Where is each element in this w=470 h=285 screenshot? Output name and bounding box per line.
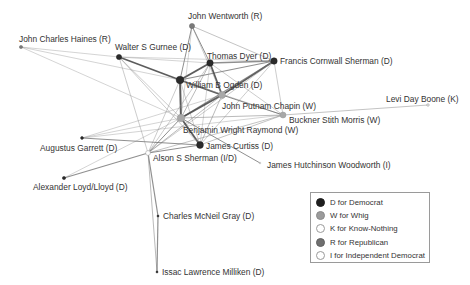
- edge-ogden-wentworth: [180, 26, 192, 80]
- legend-item-whig: W for Whig: [316, 209, 429, 222]
- republican-swatch-icon: [316, 238, 325, 247]
- edge-raymond-haines: [21, 47, 181, 118]
- legend-item-know-nothing: K for Know-Nothing: [316, 222, 429, 235]
- node-label-woodworth: James Hutchinson Woodworth (I): [267, 160, 391, 170]
- node-woodworth[interactable]: [259, 162, 261, 164]
- legend-item-independent-democrat: I for Independent Democrat: [316, 249, 429, 262]
- node-label-haines: John Charles Haines (R): [19, 34, 111, 44]
- node-lloyd[interactable]: [62, 176, 65, 179]
- node-morris[interactable]: [280, 112, 286, 118]
- legend-label: D for Democrat: [330, 198, 383, 207]
- edge-asherman-milliken: [148, 153, 157, 272]
- edge-ogden-raymond: [180, 80, 181, 118]
- legend: D for Democrat W for Whig K for Know-Not…: [310, 192, 430, 263]
- node-curtiss[interactable]: [197, 142, 204, 149]
- edge-curtiss-asherman: [148, 145, 200, 153]
- edge-raymond-asherman: [148, 118, 181, 153]
- node-chapin[interactable]: [219, 92, 226, 99]
- node-label-chapin: John Putnam Chapin (W): [222, 101, 316, 111]
- edge-wentworth-raymond: [181, 26, 192, 118]
- node-label-lloyd: Alexander Loyd/Lloyd (D): [33, 182, 128, 192]
- node-gurnee[interactable]: [116, 54, 121, 59]
- independent-democrat-swatch-icon: [316, 251, 325, 260]
- node-milliken[interactable]: [156, 271, 158, 273]
- democrat-swatch-icon: [316, 198, 325, 207]
- node-label-asherman: Alson S Sherman (I/D): [153, 153, 237, 163]
- node-label-milliken: Issac Lawrence Milliken (D): [162, 267, 265, 277]
- node-label-dyer: Thomas Dyer (D): [207, 51, 271, 61]
- node-asherman[interactable]: [146, 151, 151, 156]
- node-label-boone: Levi Day Boone (K): [386, 94, 459, 104]
- edge-asherman-lloyd: [64, 153, 148, 178]
- node-label-curtiss: James Curtiss (D): [206, 141, 273, 151]
- legend-item-democrat: D for Democrat: [316, 196, 429, 209]
- legend-item-republican: R for Republican: [316, 236, 429, 249]
- legend-label: K for Know-Nothing: [330, 224, 398, 233]
- node-ogden[interactable]: [176, 76, 184, 84]
- node-gray[interactable]: [157, 215, 159, 217]
- node-label-wentworth: John Wentworth (R): [188, 11, 263, 21]
- node-label-ogden: William B Ogden (D): [186, 80, 263, 90]
- node-label-raymond: Benjamin Wright Raymond (W): [183, 125, 298, 135]
- legend-label: R for Republican: [330, 238, 388, 247]
- edge-raymond-garrett: [82, 118, 181, 138]
- edge-gurnee-haines: [21, 47, 119, 57]
- edge-gray-milliken: [157, 216, 158, 272]
- node-label-fsherman: Francis Cornwall Sherman (D): [280, 56, 393, 66]
- node-wentworth[interactable]: [189, 23, 194, 28]
- node-raymond[interactable]: [177, 114, 185, 122]
- node-garrett[interactable]: [81, 137, 84, 140]
- node-fsherman[interactable]: [271, 58, 277, 64]
- legend-label: W for Whig: [330, 211, 369, 220]
- node-label-garrett: Augustus Garrett (D): [40, 143, 117, 153]
- node-label-morris: Buckner Stith Morris (W): [289, 115, 380, 125]
- node-label-gurnee: Walter S Gurnee (D): [115, 42, 191, 52]
- legend-label: I for Independent Democrat: [330, 251, 425, 260]
- node-boone[interactable]: [427, 104, 429, 106]
- node-label-gray: Charles McNeil Gray (D): [163, 211, 254, 221]
- whig-swatch-icon: [316, 211, 325, 220]
- know-nothing-swatch-icon: [316, 224, 325, 233]
- node-haines[interactable]: [19, 45, 22, 48]
